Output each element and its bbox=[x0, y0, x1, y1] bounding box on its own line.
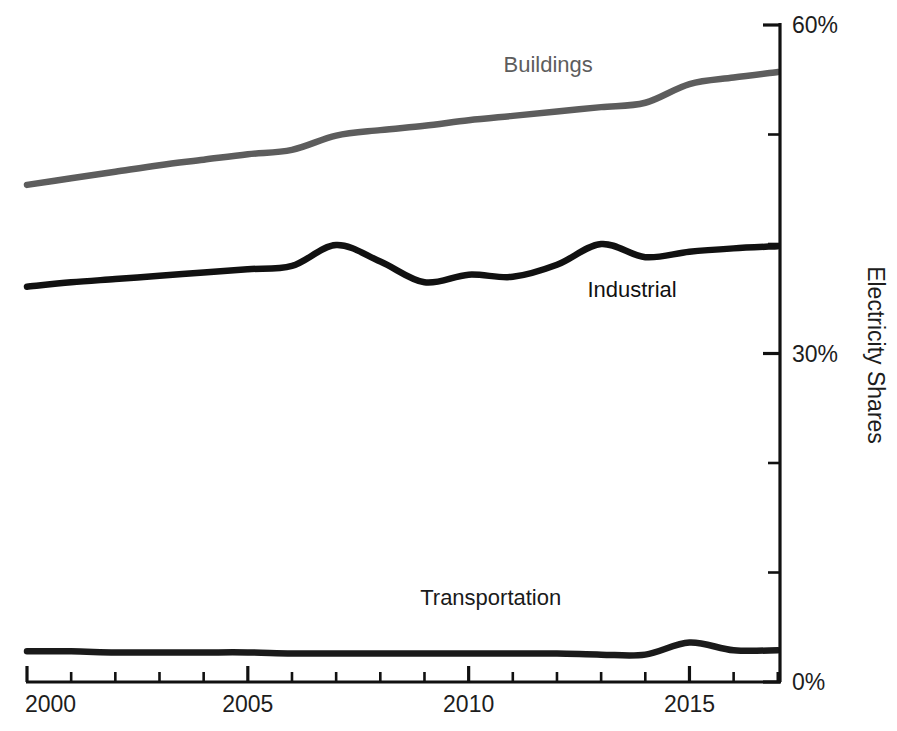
series-label-industrial: Industrial bbox=[587, 277, 676, 302]
axes: 200020052010201560%30%0%Electricity Shar… bbox=[25, 12, 889, 717]
series-labels: BuildingsIndustrialTransportation bbox=[420, 52, 676, 610]
y-axis-title: Electricity Shares bbox=[863, 266, 889, 444]
series-line-buildings bbox=[27, 72, 778, 185]
y-tick-label-30%: 30% bbox=[792, 341, 838, 367]
electricity-shares-line-chart: 200020052010201560%30%0%Electricity Shar… bbox=[0, 0, 897, 731]
series-label-buildings: Buildings bbox=[503, 52, 592, 77]
series-label-transportation: Transportation bbox=[420, 585, 561, 610]
chart-container: 200020052010201560%30%0%Electricity Shar… bbox=[0, 0, 897, 731]
y-tick-label-0%: 0% bbox=[792, 669, 825, 695]
series-line-transportation bbox=[27, 643, 778, 656]
plot-area bbox=[27, 72, 778, 655]
footer-caption-strip bbox=[0, 712, 897, 731]
y-tick-label-60%: 60% bbox=[792, 12, 838, 38]
